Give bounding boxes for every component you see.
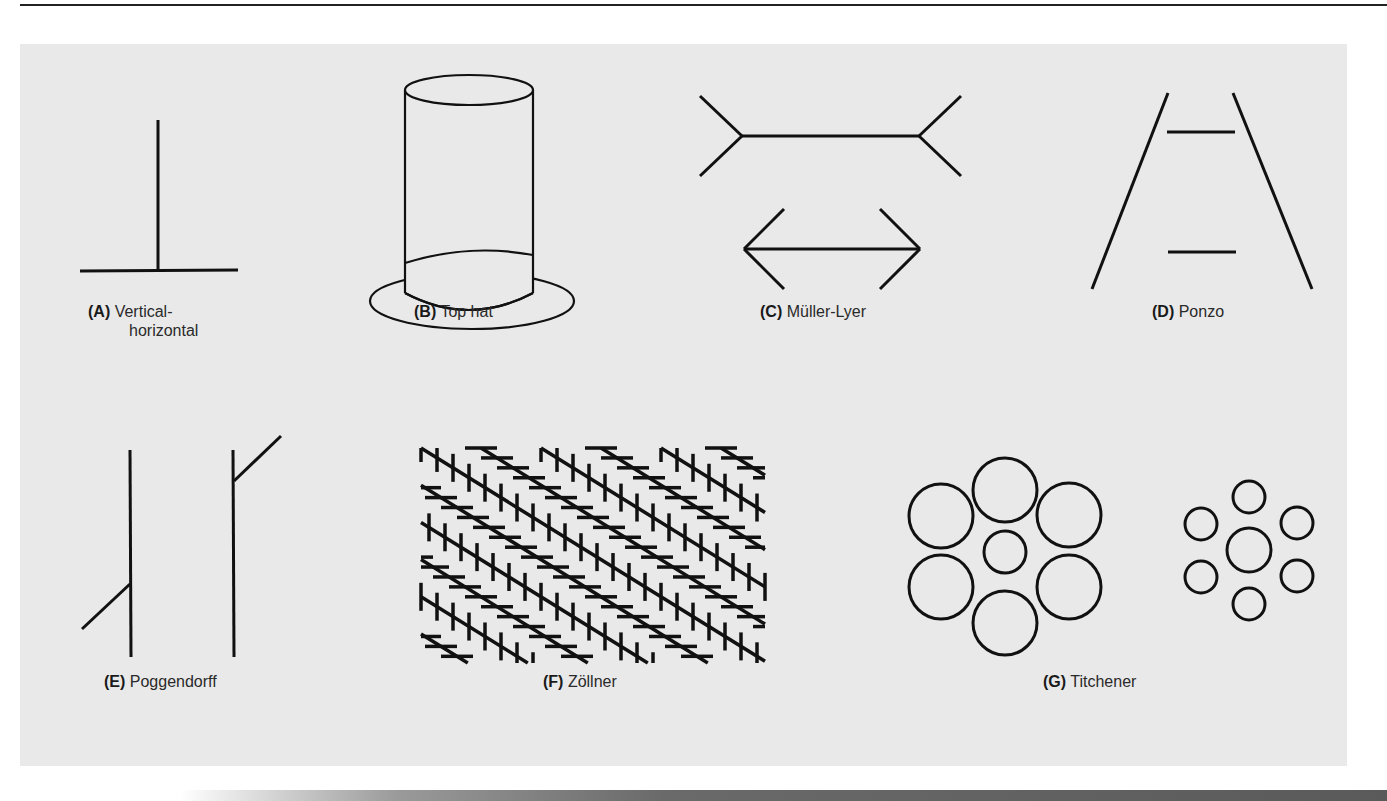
caption-zollner: (F) Zöllner xyxy=(543,672,617,691)
caption-text-line2: horizontal xyxy=(88,322,198,339)
caption-letter: (D) xyxy=(1152,303,1174,320)
caption-letter: (G) xyxy=(1043,673,1066,690)
caption-vertical-horizontal: (A) Vertical- horizontal xyxy=(88,302,198,340)
titchener-illusion xyxy=(909,458,1313,655)
caption-text: Zöllner xyxy=(568,673,617,690)
caption-text: Top hat xyxy=(440,303,492,320)
caption-top-hat: (B) Top hat xyxy=(414,302,493,321)
caption-text: Müller-Lyer xyxy=(787,303,866,320)
caption-letter: (C) xyxy=(760,303,782,320)
caption-letter: (F) xyxy=(543,673,563,690)
caption-muller-lyer: (C) Müller-Lyer xyxy=(760,302,866,321)
caption-poggendorff: (E) Poggendorff xyxy=(104,672,217,691)
poggendorff-illusion xyxy=(82,436,281,657)
caption-text: Poggendorff xyxy=(130,673,217,690)
vertical-horizontal-illusion xyxy=(80,120,238,271)
ponzo-illusion xyxy=(1092,93,1312,289)
caption-text: Vertical- xyxy=(115,303,173,320)
top-hat-illusion xyxy=(370,75,574,329)
zollner-illusion xyxy=(421,448,765,663)
caption-text: Ponzo xyxy=(1179,303,1224,320)
caption-ponzo: (D) Ponzo xyxy=(1152,302,1224,321)
caption-titchener: (G) Titchener xyxy=(1043,672,1136,691)
caption-letter: (E) xyxy=(104,673,125,690)
muller-lyer-illusion xyxy=(700,96,961,289)
caption-letter: (A) xyxy=(88,303,110,320)
caption-text: Titchener xyxy=(1070,673,1136,690)
caption-letter: (B) xyxy=(414,303,436,320)
